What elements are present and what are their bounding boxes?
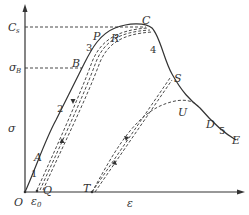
x-axis-arrow-icon	[237, 190, 245, 195]
sigma-b-tick-sub: B	[15, 67, 21, 75]
point-label-d: D	[205, 118, 215, 131]
point-label-p: P	[92, 30, 101, 43]
point-label-r: R	[110, 32, 119, 45]
segment-label-3: 3	[86, 42, 92, 53]
x-axis-label: ε	[127, 197, 133, 210]
point-label-a: A	[33, 151, 42, 164]
point-label-e: E	[231, 134, 240, 147]
point-label-c: C	[142, 14, 151, 27]
point-label-t: T	[83, 182, 92, 195]
segment-label-2: 2	[57, 103, 63, 114]
segment-label-5: 5	[219, 125, 225, 136]
stress-strain-diagram: σ ε O C s σ B ε 0 A B P C R Q S T U D E …	[0, 0, 249, 215]
origin-label: O	[14, 196, 23, 209]
unload-reload-ts	[92, 78, 200, 192]
cs-tick-sub: s	[16, 27, 20, 35]
point-label-b: B	[71, 57, 80, 70]
point-label-s: S	[174, 72, 182, 85]
y-axis-arrow-icon	[23, 4, 28, 12]
point-label-q: Q	[43, 184, 52, 197]
eps0-tick-sub: 0	[37, 201, 42, 209]
segment-label-4: 4	[150, 44, 156, 55]
segment-label-1: 1	[31, 168, 37, 179]
axes	[23, 4, 246, 195]
unload-reload-qr	[37, 28, 152, 190]
y-axis-label: σ	[8, 122, 16, 135]
point-label-u: U	[178, 106, 188, 119]
